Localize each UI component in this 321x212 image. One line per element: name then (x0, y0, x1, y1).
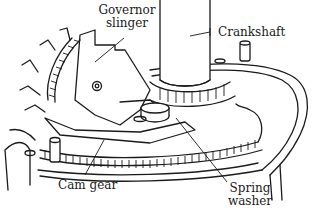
label-crankshaft: Crankshaft (218, 26, 285, 39)
label-governor-slinger-line2: slinger (92, 17, 162, 30)
label-cam-gear-text: Cam gear (58, 178, 117, 192)
crankshaft (150, 0, 250, 106)
label-governor-slinger: Governor slinger (92, 4, 162, 30)
governor-slinger (20, 28, 150, 125)
label-cam-gear: Cam gear (58, 179, 117, 192)
label-spring-washer: Spring washer (224, 182, 276, 208)
label-spring-washer-line2: washer (224, 195, 276, 208)
diagram-canvas: Governor slinger Crankshaft Cam gear Spr… (0, 0, 321, 212)
label-crankshaft-text: Crankshaft (218, 25, 285, 39)
